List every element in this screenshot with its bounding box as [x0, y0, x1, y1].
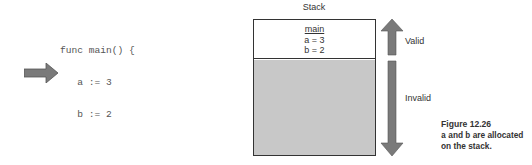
frame-var: b = 2	[254, 45, 375, 56]
invalid-stack-area	[254, 60, 375, 155]
code-line: func main() {	[60, 46, 227, 57]
valid-invalid-arrows	[380, 18, 404, 158]
stack-box: main a = 3 b = 2	[253, 19, 376, 156]
invalid-label: Invalid	[405, 93, 431, 103]
current-line-arrow-icon	[24, 63, 60, 83]
frame-name: main	[254, 24, 375, 35]
figure-caption: Figure 12.26 a and b are allocated on th…	[441, 119, 523, 152]
caption-line-1: a and b are allocated	[441, 130, 523, 142]
code-line	[60, 142, 227, 153]
caption-line-2: on the stack.	[441, 141, 523, 152]
stack-title: Stack	[253, 2, 375, 12]
valid-label: Valid	[405, 36, 424, 46]
code-listing: func main() { a := 3 b := 2 c := sumValu…	[60, 25, 227, 165]
stack-frame-main: main a = 3 b = 2	[254, 20, 375, 59]
up-arrow-icon	[381, 19, 403, 55]
code-line: a := 3	[60, 78, 227, 89]
frame-var: a = 3	[254, 35, 375, 46]
down-arrow-icon	[381, 61, 403, 156]
code-line: b := 2	[60, 110, 227, 121]
figure-number: Figure 12.26	[441, 119, 523, 130]
